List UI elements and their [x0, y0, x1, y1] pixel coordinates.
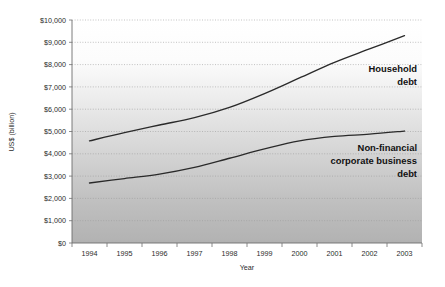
x-tick-label: 1998 [222, 249, 238, 258]
series-label-corporate-line-2: debt [397, 168, 417, 179]
y-tick-label: $0 [58, 239, 66, 248]
y-tick-label: $10,000 [40, 16, 66, 25]
series-label-corporate-line-0: Non-financial [358, 142, 417, 153]
x-axis-title: Year [240, 263, 255, 272]
x-tick-label: 2001 [327, 249, 343, 258]
series-label-household-debt-line-1: debt [397, 76, 417, 87]
y-axis-title: US$ (billion) [7, 112, 16, 151]
y-tick-label: $4,000 [44, 149, 66, 158]
x-tick-label: 2002 [362, 249, 378, 258]
y-tick-label: $8,000 [44, 60, 66, 69]
x-tick-label: 1995 [117, 249, 133, 258]
y-tick-label: $6,000 [44, 105, 66, 114]
x-tick-label: 2003 [397, 249, 413, 258]
series-label-household-debt-line-0: Household [369, 63, 418, 74]
y-tick-label: $7,000 [44, 83, 66, 92]
y-tick-label: $1,000 [44, 216, 66, 225]
x-tick-label: 1994 [82, 249, 98, 258]
chart-container: $0$1,000$2,000$3,000$4,000$5,000$6,000$7… [0, 0, 445, 287]
y-tick-label: $5,000 [44, 127, 66, 136]
y-tick-label: $9,000 [44, 38, 66, 47]
y-tick-label: $2,000 [44, 194, 66, 203]
x-tick-label: 2000 [292, 249, 308, 258]
series-label-corporate-line-1: corporate business [331, 155, 418, 166]
debt-trend-line-chart: $0$1,000$2,000$3,000$4,000$5,000$6,000$7… [0, 0, 445, 287]
x-tick-label: 1996 [152, 249, 168, 258]
x-tick-label: 1999 [257, 249, 273, 258]
x-tick-label: 1997 [187, 249, 203, 258]
y-tick-label: $3,000 [44, 172, 66, 181]
